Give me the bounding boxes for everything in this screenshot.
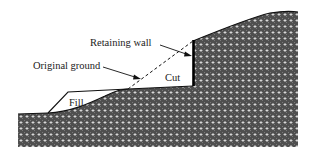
original-ground-leader [103, 67, 141, 80]
label-original-ground: Original ground [33, 60, 101, 71]
label-fill: Fill [69, 97, 84, 108]
cut-fill-diagram: Retaining wall Original ground Cut Fill [0, 0, 313, 157]
retaining-wall-leader [160, 45, 192, 57]
ground-mass [18, 11, 298, 147]
label-retaining-wall: Retaining wall [90, 37, 152, 48]
label-cut: Cut [165, 72, 180, 83]
original-ground-line [128, 41, 193, 89]
